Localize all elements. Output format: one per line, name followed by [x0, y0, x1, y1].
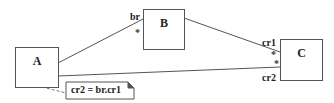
class-b-label: B	[144, 16, 184, 31]
diagram-canvas: A B C br * cr1 * * cr2 cr2 = br.cr1	[0, 0, 334, 103]
class-a-label: A	[16, 54, 58, 69]
class-a[interactable]: A	[15, 47, 59, 88]
role-cr1: cr1	[262, 38, 276, 48]
association-a-b	[58, 19, 143, 63]
class-c[interactable]: C	[280, 39, 323, 81]
association-a-c	[58, 67, 280, 76]
multiplicity-br: *	[135, 28, 140, 38]
multiplicity-cr2: *	[274, 59, 279, 69]
note-fold-icon	[128, 82, 134, 88]
role-br: br	[130, 12, 140, 22]
class-c-label: C	[281, 46, 322, 61]
constraint-note: cr2 = br.cr1	[66, 82, 128, 99]
class-b[interactable]: B	[143, 9, 185, 50]
role-cr2: cr2	[262, 73, 276, 83]
